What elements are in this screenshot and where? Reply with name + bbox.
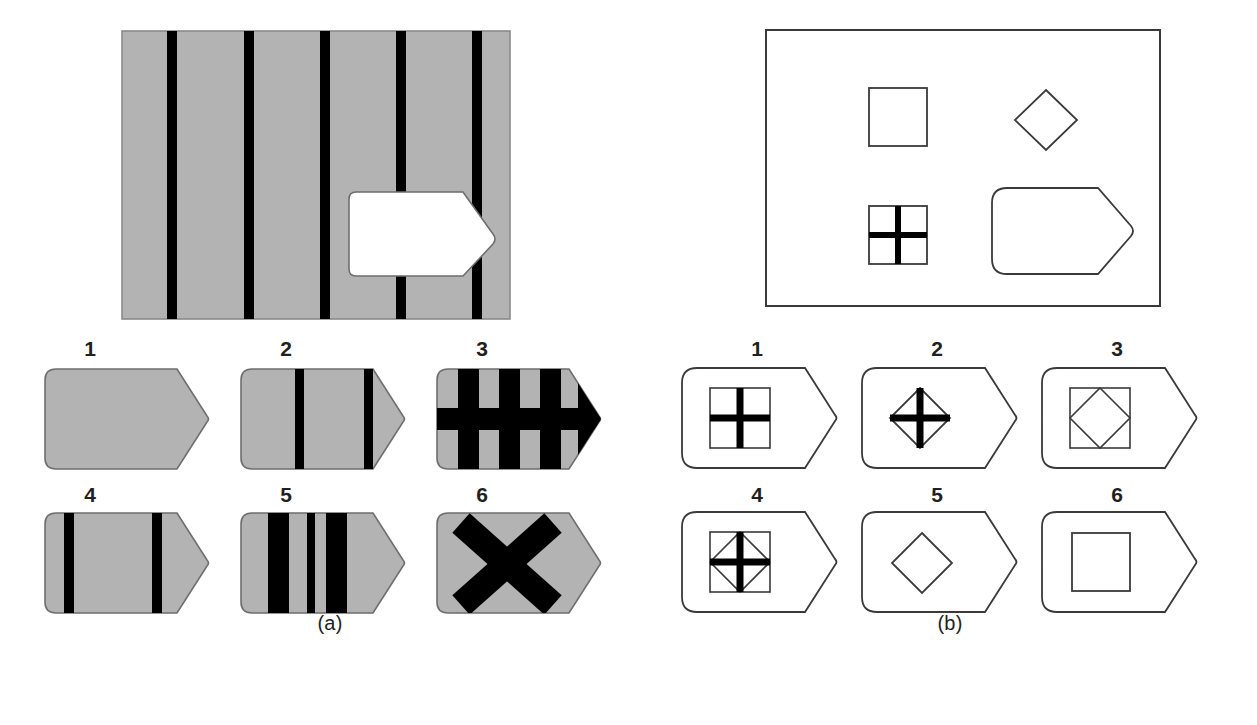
crossed-square [869,206,927,264]
panel-b-caption: (b) [910,612,990,635]
panel-b-option-3[interactable] [1040,366,1200,470]
stripe-5 [472,31,482,319]
tag-body [241,369,405,469]
figure-root: 1 2 3 [0,0,1257,725]
panel-b-option-4[interactable] [680,510,840,614]
stripe-2 [152,510,162,616]
plain-square [869,88,927,146]
outline-rectangle [766,30,1160,306]
stripe-3 [320,31,330,319]
panel-a-option-3-label: 3 [462,337,502,361]
panel-b-option-6-label: 6 [1097,483,1137,507]
panel-b-option-2[interactable] [860,366,1020,470]
panel-a-option-5-label: 5 [266,483,306,507]
panel-a-option-4-label: 4 [70,483,110,507]
panel-b: 1 2 3 [620,0,1257,725]
large-tag-outline [992,188,1133,274]
panel-a-option-2[interactable] [238,366,408,472]
panel-a-option-6[interactable] [434,510,604,616]
tag-body [241,513,405,613]
panel-a-option-3[interactable] [434,366,604,472]
panel-a-option-5[interactable] [238,510,408,616]
stripe-2 [307,510,315,616]
stripe-2 [364,366,373,472]
tag-body [862,512,1017,612]
stripe-1 [268,510,289,616]
plain-diamond [1015,90,1077,150]
panel-b-option-1[interactable] [680,366,840,470]
panel-b-stimulus [764,28,1162,308]
stripe-2 [244,31,254,319]
panel-a-option-4[interactable] [42,510,212,616]
panel-a-option-6-label: 6 [462,483,502,507]
tag-body [1042,368,1197,468]
panel-b-option-2-label: 2 [917,337,957,361]
panel-b-option-5-label: 5 [917,483,957,507]
panel-b-option-5[interactable] [860,510,1020,614]
tag-body [1042,512,1197,612]
panel-a-option-2-label: 2 [266,337,306,361]
panel-a: 1 2 3 [0,0,620,725]
panel-b-option-4-label: 4 [737,483,777,507]
stripe-1 [167,31,177,319]
panel-b-option-6[interactable] [1040,510,1200,614]
panel-a-option-1[interactable] [42,366,212,472]
stripe-3 [326,510,347,616]
panel-a-caption: (a) [290,612,370,635]
stripe-1 [64,510,74,616]
horizontal-bar [434,408,604,430]
panel-a-option-1-label: 1 [70,337,110,361]
panel-a-stimulus [118,27,514,323]
stripe-1 [295,366,304,472]
panel-b-option-3-label: 3 [1097,337,1137,361]
tag-grid-pattern [434,366,604,472]
tag-body [45,369,209,469]
tag-stripes [268,510,347,616]
panel-b-option-1-label: 1 [737,337,777,361]
